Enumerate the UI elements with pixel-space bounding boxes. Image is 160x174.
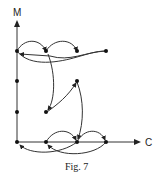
node [44, 140, 48, 144]
node [104, 49, 108, 53]
node [75, 49, 79, 53]
graph-edges [17, 41, 106, 153]
node [15, 140, 19, 144]
edge [77, 131, 105, 142]
c-axis-arrow-icon [134, 139, 141, 145]
node [75, 140, 79, 144]
node [75, 79, 79, 83]
node [44, 110, 48, 114]
edge [46, 41, 77, 51]
edge [20, 51, 106, 58]
node [15, 110, 19, 114]
node [15, 49, 19, 53]
m-axis-arrow-icon [14, 20, 20, 27]
c-axis-label: C [145, 137, 152, 148]
edge [20, 142, 77, 152]
node [15, 79, 19, 83]
edge [77, 82, 82, 139]
edge [17, 41, 46, 51]
graph-nodes [15, 49, 108, 144]
node [104, 140, 108, 144]
edge [46, 131, 76, 142]
figure-canvas: M C Fig. 7 [0, 0, 160, 174]
edge [47, 83, 76, 112]
figure-caption: Fig. 7 [65, 161, 88, 172]
m-axis-label: M [13, 7, 21, 18]
node [44, 49, 48, 53]
